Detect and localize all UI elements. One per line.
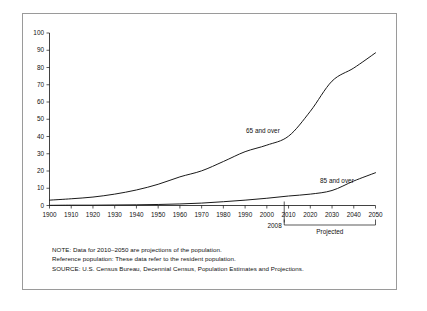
x-tick-label: 1990 [238, 211, 253, 218]
x-tick-group [50, 206, 376, 209]
y-tick-label-group: 0102030405060708090100 [33, 29, 44, 209]
y-axis: 0102030405060708090100 [33, 29, 49, 209]
marker-2008-label: 2008 [268, 222, 283, 229]
footnote-note: NOTE: Data for 2010–2050 are projections… [52, 245, 382, 254]
series-label-85-and-over: 85 and over [320, 177, 355, 184]
footnote-reference-population: Reference population: These data refer t… [52, 254, 382, 263]
y-tick-label: 0 [40, 202, 44, 209]
y-tick-label: 90 [37, 46, 45, 53]
series-label-65-and-over: 65 and over [246, 127, 281, 134]
x-axis: 1900191019201930194019501960197019801990… [42, 206, 383, 219]
y-tick-group [47, 33, 50, 206]
x-tick-label: 1910 [64, 211, 79, 218]
x-tick-label: 2040 [347, 211, 362, 218]
x-tick-label: 1950 [151, 211, 166, 218]
x-tick-label: 1930 [108, 211, 123, 218]
x-tick-label: 1900 [42, 211, 57, 218]
y-tick-label: 60 [37, 98, 45, 105]
y-tick-label: 70 [37, 81, 45, 88]
y-tick-label: 10 [37, 184, 45, 191]
footnotes: NOTE: Data for 2010–2050 are projections… [52, 245, 382, 273]
x-tick-label: 2020 [303, 211, 318, 218]
x-tick-label: 1960 [173, 211, 188, 218]
x-tick-label: 2010 [281, 211, 296, 218]
x-tick-label: 2000 [260, 211, 275, 218]
projected-bracket-path [284, 220, 375, 226]
footnote-source: SOURCE: U.S. Census Bureau, Decennial Ce… [52, 264, 382, 273]
x-tick-label: 1980 [216, 211, 231, 218]
y-tick-label: 50 [37, 115, 45, 122]
x-tick-label: 2030 [325, 211, 340, 218]
x-tick-label: 1920 [86, 211, 101, 218]
projected-label: Projected [316, 228, 343, 236]
x-tick-label: 1970 [195, 211, 210, 218]
chart-figure: 0102030405060708090100 19001910192019301… [0, 0, 427, 311]
y-tick-label: 80 [37, 64, 45, 71]
projected-bracket-group: Projected [284, 220, 375, 236]
x-tick-label-group: 1900191019201930194019501960197019801990… [42, 211, 383, 218]
y-tick-label: 40 [37, 133, 45, 140]
x-tick-label: 2050 [368, 211, 383, 218]
y-tick-label: 30 [37, 150, 45, 157]
x-tick-label: 1940 [129, 211, 144, 218]
y-tick-label: 100 [33, 29, 44, 36]
y-tick-label: 20 [37, 167, 45, 174]
